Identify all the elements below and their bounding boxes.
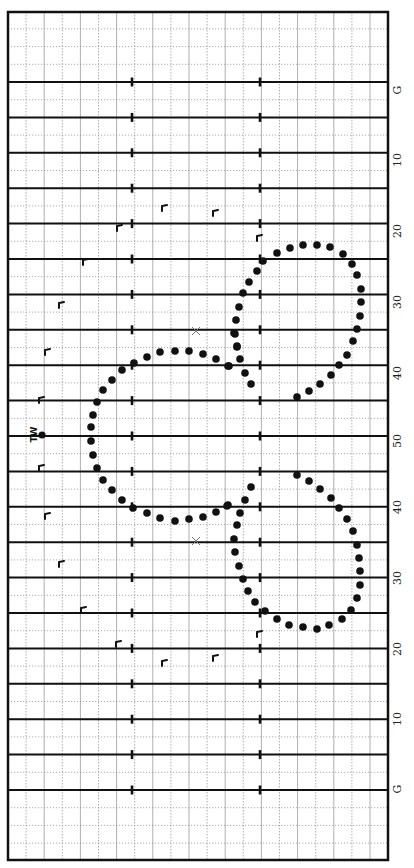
performer-dot bbox=[93, 464, 101, 472]
yard-label: 40 bbox=[392, 495, 404, 519]
performer-dot bbox=[349, 527, 357, 535]
center-marker-dot bbox=[38, 431, 45, 438]
performer-dot bbox=[325, 621, 333, 629]
performer-dot bbox=[247, 483, 255, 491]
performer-dot bbox=[273, 249, 281, 257]
performer-dot bbox=[230, 329, 238, 337]
performer-dot bbox=[286, 244, 294, 252]
performer-dot bbox=[118, 496, 126, 504]
performer-dot bbox=[261, 607, 269, 615]
performer-dot bbox=[171, 347, 179, 355]
performer-dot bbox=[313, 241, 321, 249]
performer-dot bbox=[231, 548, 239, 556]
performer-dot bbox=[335, 361, 343, 369]
performer-dot bbox=[199, 513, 207, 521]
performer-dot bbox=[339, 250, 347, 258]
x-marker-icon bbox=[192, 537, 200, 545]
step-mark-icon bbox=[59, 302, 64, 308]
performer-dot bbox=[353, 541, 361, 549]
performer-dot bbox=[239, 575, 247, 583]
step-mark-icon bbox=[39, 465, 44, 471]
step-mark-icon bbox=[59, 561, 64, 567]
performer-dot bbox=[93, 398, 101, 406]
performer-dot bbox=[212, 355, 220, 363]
x-marker-icon bbox=[192, 327, 200, 335]
step-mark-icon bbox=[162, 660, 167, 666]
yard-lines bbox=[8, 82, 388, 790]
yard-label: 10 bbox=[392, 148, 404, 172]
performer-dot bbox=[244, 587, 252, 595]
performer-dot bbox=[118, 366, 126, 374]
performer-dot bbox=[87, 423, 95, 431]
performer-dot bbox=[356, 581, 364, 589]
performer-dot bbox=[241, 496, 249, 504]
yard-label: 50 bbox=[392, 429, 404, 453]
performer-dot bbox=[230, 535, 238, 543]
performer-dot bbox=[357, 298, 365, 306]
step-mark-icon bbox=[213, 210, 218, 216]
performer-dot bbox=[356, 312, 364, 320]
performer-dot bbox=[313, 625, 321, 633]
performer-dot bbox=[199, 350, 207, 358]
performer-dot bbox=[129, 504, 137, 512]
yard-label: G bbox=[392, 777, 404, 801]
performer-dot bbox=[232, 316, 240, 324]
performer-dot bbox=[253, 267, 261, 275]
performer-dot bbox=[143, 353, 151, 361]
step-mark-icon bbox=[162, 205, 167, 211]
performer-dot bbox=[185, 515, 193, 523]
performer-dot bbox=[353, 271, 361, 279]
performer-dot bbox=[247, 380, 255, 388]
performer-dot bbox=[235, 303, 243, 311]
center-marker-label: TW bbox=[30, 426, 39, 442]
drill-chart-field bbox=[0, 0, 414, 868]
performer-dot bbox=[108, 376, 116, 384]
performer-dot bbox=[99, 386, 107, 394]
yard-label: 20 bbox=[392, 219, 404, 243]
performer-dot bbox=[245, 278, 253, 286]
performer-dot bbox=[353, 325, 361, 333]
performer-dot bbox=[233, 521, 241, 529]
performer-dot bbox=[343, 515, 351, 523]
performer-dot bbox=[299, 623, 307, 631]
performer-dot bbox=[349, 337, 357, 345]
performer-dot bbox=[316, 485, 324, 493]
performer-dot bbox=[89, 451, 97, 459]
step-mark-icon bbox=[117, 225, 122, 231]
performer-dot bbox=[130, 359, 138, 367]
performer-dot bbox=[241, 369, 249, 377]
performer-dot bbox=[89, 411, 97, 419]
performer-dot bbox=[236, 509, 244, 517]
performer-dot bbox=[171, 517, 179, 525]
performer-dot bbox=[299, 241, 307, 249]
performer-dot bbox=[338, 615, 346, 623]
performer-dot bbox=[326, 243, 334, 251]
yard-label: G bbox=[392, 78, 404, 102]
performer-dot bbox=[355, 554, 363, 562]
performer-dot bbox=[293, 471, 301, 479]
step-mark-icon bbox=[45, 513, 50, 519]
performer-dot bbox=[99, 476, 107, 484]
performer-dot bbox=[343, 351, 351, 359]
yard-label: 20 bbox=[392, 637, 404, 661]
yard-label: 40 bbox=[392, 361, 404, 385]
performer-dot bbox=[259, 257, 267, 265]
performer-dot bbox=[251, 598, 259, 606]
performer-dot bbox=[108, 486, 116, 494]
performer-dot bbox=[273, 615, 281, 623]
yard-label: 10 bbox=[392, 707, 404, 731]
step-mark-icon bbox=[45, 349, 50, 355]
performer-dot bbox=[236, 355, 244, 363]
performer-dot bbox=[348, 260, 356, 268]
performer-dot bbox=[327, 371, 335, 379]
performer-dot bbox=[223, 502, 231, 510]
yard-label: 30 bbox=[392, 290, 404, 314]
performer-dot bbox=[316, 380, 324, 388]
performer-dot bbox=[185, 347, 193, 355]
performer-dot bbox=[327, 494, 335, 502]
step-mark-icon bbox=[83, 259, 88, 265]
performer-dot bbox=[156, 348, 164, 356]
performer-dot bbox=[335, 504, 343, 512]
performer-dot bbox=[156, 514, 164, 522]
performer-dot bbox=[285, 621, 293, 629]
